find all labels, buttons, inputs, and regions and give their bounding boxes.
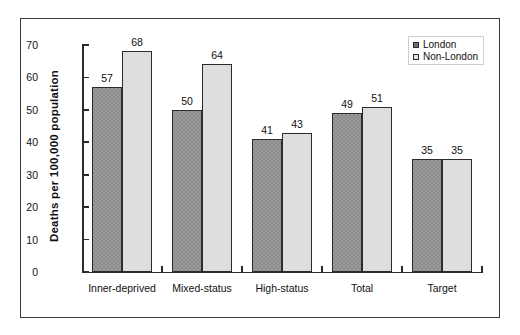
- bar-total-non-london: [362, 107, 392, 272]
- x-tick: [241, 266, 243, 273]
- bar-chart: Deaths per 100,000 population 0102030405…: [0, 0, 520, 335]
- y-tick-label-wrap-70: 70: [0, 40, 80, 50]
- bar-value-label: 51: [357, 93, 397, 104]
- y-tick-label-wrap-50: 50: [0, 105, 80, 115]
- x-tick: [161, 266, 163, 273]
- bar-target-london: [412, 159, 442, 273]
- x-tick: [481, 266, 483, 273]
- chart-legend: London Non-London: [408, 36, 484, 65]
- bar-value-label: 68: [117, 37, 157, 48]
- y-tick-label-70: 70: [12, 40, 38, 50]
- x-tick: [321, 266, 323, 273]
- y-tick-label-wrap-20: 20: [0, 202, 80, 212]
- y-tick-50: [82, 109, 89, 111]
- y-tick-20: [82, 206, 89, 208]
- bar-high-status-non-london: [282, 133, 312, 272]
- y-tick-label-60: 60: [12, 72, 38, 82]
- legend-item-london: London: [413, 39, 483, 51]
- y-tick-0: [82, 271, 89, 273]
- y-tick-label-0: 0: [12, 267, 38, 277]
- bar-mixed-status-non-london: [202, 64, 232, 272]
- bar-total-london: [332, 113, 362, 272]
- bar-high-status-london: [252, 139, 282, 272]
- y-tick-40: [82, 141, 89, 143]
- bar-value-label: 43: [277, 119, 317, 130]
- y-tick-label-40: 40: [12, 137, 38, 147]
- bar-inner-deprived-non-london: [122, 51, 152, 272]
- y-tick-10: [82, 239, 89, 241]
- bar-target-non-london: [442, 159, 472, 273]
- bar-mixed-status-london: [172, 110, 202, 272]
- legend-label-london: London: [423, 39, 456, 51]
- y-tick-label-wrap-40: 40: [0, 137, 80, 147]
- bar-value-label: 50: [167, 96, 207, 107]
- bar-value-label: 57: [87, 73, 127, 84]
- legend-swatch-london-icon: [413, 42, 419, 48]
- y-tick-label-20: 20: [12, 202, 38, 212]
- legend-label-non-london: Non-London: [423, 51, 478, 63]
- legend-swatch-non-london-icon: [413, 54, 419, 60]
- y-tick-label-50: 50: [12, 105, 38, 115]
- y-tick-label-wrap-0: 0: [0, 267, 80, 277]
- y-tick-label-wrap-60: 60: [0, 72, 80, 82]
- x-tick: [401, 266, 403, 273]
- bar-value-label: 64: [197, 50, 237, 61]
- y-tick-label-30: 30: [12, 170, 38, 180]
- y-tick-label-10: 10: [12, 235, 38, 245]
- bar-inner-deprived-london: [92, 87, 122, 272]
- y-tick-70: [82, 44, 89, 46]
- y-tick-label-wrap-10: 10: [0, 235, 80, 245]
- bar-value-label: 35: [437, 145, 477, 156]
- y-tick-30: [82, 174, 89, 176]
- y-tick-label-wrap-30: 30: [0, 170, 80, 180]
- category-label-target: Target: [382, 282, 502, 294]
- legend-item-non-london: Non-London: [413, 51, 483, 63]
